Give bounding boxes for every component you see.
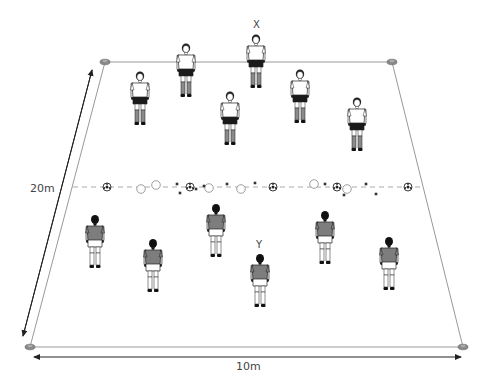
player-grey-icon [251,254,270,307]
players [86,34,399,307]
pitch-canvas [0,0,490,386]
marker-dot-icon [203,185,206,188]
width-dimension-label: 10m [236,360,261,373]
length-arrow-head-top [23,70,92,336]
cone-icon [25,344,35,350]
football-icon [333,183,341,191]
football-icon [404,183,412,191]
marker-dot-icon [226,183,229,186]
marker-dot-icon [254,182,257,185]
player-x-label: X [253,19,260,30]
cone-icon [387,59,397,65]
corner-cones [25,59,468,350]
football-icon [269,183,277,191]
player-grey-icon [86,215,105,268]
marker-dot-icon [365,183,368,186]
player-white-icon [131,71,150,125]
player-white-icon [247,34,266,88]
cone-icon [100,59,110,65]
marker-dot-icon [176,183,179,186]
football-icon [186,183,194,191]
player-y-label: Y [256,239,262,250]
pitch-boundary [30,62,463,347]
player-grey-icon [316,211,335,264]
hoop-icon [137,185,146,194]
marker-dot-icon [343,194,346,197]
hoop-icon [152,181,161,190]
hoop-icon [237,185,246,194]
player-grey-icon [144,239,163,292]
hoop-icon [310,180,319,189]
pitch-outline [30,62,463,347]
football-icon [103,183,111,191]
drill-diagram: 20m 10m X Y [0,0,490,386]
player-white-icon [291,69,310,123]
dimension-arrows [23,70,461,357]
marker-dot-icon [375,193,378,196]
player-white-icon [221,91,240,145]
length-dimension-label: 20m [30,182,55,195]
hoop-icon [205,184,214,193]
hoop-icon [343,185,352,194]
marker-dot-icon [324,183,327,186]
marker-dot-icon [179,192,182,195]
marker-dot-icon [195,188,198,191]
cone-icon [458,344,468,350]
player-grey-icon [380,237,399,290]
center-line-equipment [103,180,412,197]
player-white-icon [177,43,196,97]
player-grey-icon [207,204,226,257]
player-white-icon [348,97,367,151]
